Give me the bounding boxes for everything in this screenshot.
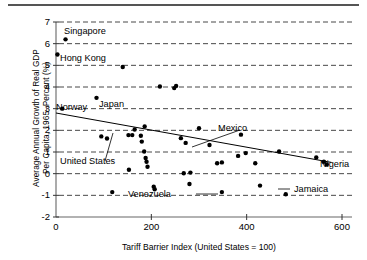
data-point-10 [126,133,130,137]
data-point-3 [158,84,162,88]
data-point-mexico [183,141,187,145]
data-point-21 [110,190,114,194]
y-tick-label--1: -1 [30,190,50,200]
data-point-28 [215,161,219,165]
y-tick-label-1: 1 [30,147,50,157]
x-tick-label-600: 600 [325,222,359,232]
annotation-united-states: United States [60,157,115,166]
x-axis-title: Tariff Barrier Index (United States = 10… [56,242,342,252]
data-point-11 [130,133,134,137]
data-point-8 [99,134,103,138]
data-point-united-states [105,136,109,140]
data-point-15 [140,139,144,143]
data-point-12 [132,127,136,131]
x-tick-label-0: 0 [39,222,73,232]
y-tick-label-3: 3 [30,104,50,114]
data-point-26 [197,126,201,130]
data-point-30 [182,171,186,175]
data-point-37 [253,161,257,165]
annotation-venezuela: Venezuela [128,190,171,199]
data-point-19 [145,165,149,169]
data-point-39 [277,149,281,153]
data-point-jamaica [284,192,288,196]
data-point-27 [207,143,211,147]
data-point-13 [139,134,143,138]
data-point-38 [258,183,262,187]
x-tick-label-400: 400 [230,222,264,232]
y-tick-label-2: 2 [30,125,50,135]
annotation-hong-kong: Hong Kong [60,54,106,63]
y-tick-label-5: 5 [30,60,50,70]
data-point-17 [143,156,147,160]
data-point-singapore [63,37,67,41]
data-point-35 [236,154,240,158]
y-tick-label--2: -2 [30,212,50,222]
data-point-2 [121,65,125,69]
trend-line [56,113,332,162]
annotation-nigeria: Nigeria [320,160,349,169]
y-tick-label-7: 7 [30,17,50,27]
data-point-31 [188,170,192,174]
data-point-18 [144,160,148,164]
data-point-14 [142,124,146,128]
data-point-hong-kong [55,52,59,56]
annotation-singapore: Singapore [64,27,106,36]
y-tick-label-0: 0 [30,169,50,179]
regression-line [56,113,332,162]
data-point-24 [179,136,183,140]
data-point-36 [244,151,248,155]
data-point-venezuela [220,190,224,194]
scatter-chart-figure: Average Annual Growth of Real GDP Per Ca… [0,0,367,260]
annotation-mexico: Mexico [218,124,247,133]
annotation-jamaica: Jamaica [294,185,328,194]
data-point-5 [174,84,178,88]
annotation-japan: Japan [99,100,124,109]
annotation-norway: Norway [56,103,87,112]
x-tick-label-200: 200 [134,222,168,232]
annotation-leader-lines [105,130,290,194]
data-point-16 [142,149,146,153]
data-point-41 [314,155,318,159]
y-tick-label-6: 6 [30,39,50,49]
y-tick-label-4: 4 [30,82,50,92]
data-point-29 [220,160,224,164]
data-point-20 [127,168,131,172]
data-point-32 [187,182,191,186]
